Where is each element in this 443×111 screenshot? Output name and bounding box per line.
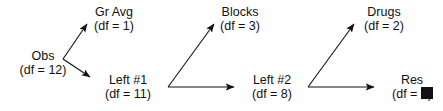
label-left-1-df: (df = 11) (92, 87, 164, 101)
panel-3-arrows (308, 24, 374, 87)
label-gr-avg-name: Gr Avg (78, 5, 150, 19)
df-decomposition-diagram: Obs (df = 12) Gr Avg (df = 1) Left #1 (d… (0, 0, 443, 111)
label-obs: Obs (df = 12) (6, 49, 80, 77)
label-drugs-df: (df = 2) (348, 19, 420, 33)
arrow-to-blocks (168, 24, 214, 87)
label-gr-avg-df: (df = 1) (78, 19, 150, 33)
label-blocks: Blocks (df = 3) (204, 5, 276, 33)
end-of-figure-square-marker (421, 87, 433, 99)
label-gr-avg: Gr Avg (df = 1) (78, 5, 150, 33)
panel-2-arrows (168, 24, 234, 87)
label-blocks-name: Blocks (204, 5, 276, 19)
label-blocks-df: (df = 3) (204, 19, 276, 33)
arrow-to-drugs (308, 24, 354, 87)
label-drugs-name: Drugs (348, 5, 420, 19)
label-left-1: Left #1 (df = 11) (92, 73, 164, 101)
label-left-2: Left #2 (df = 8) (236, 73, 308, 101)
label-obs-name: Obs (6, 49, 80, 63)
label-obs-df: (df = 12) (6, 63, 80, 77)
label-res-name: Res (376, 73, 443, 87)
label-left-1-name: Left #1 (92, 73, 164, 87)
label-left-2-df: (df = 8) (236, 87, 308, 101)
label-drugs: Drugs (df = 2) (348, 5, 420, 33)
label-left-2-name: Left #2 (236, 73, 308, 87)
